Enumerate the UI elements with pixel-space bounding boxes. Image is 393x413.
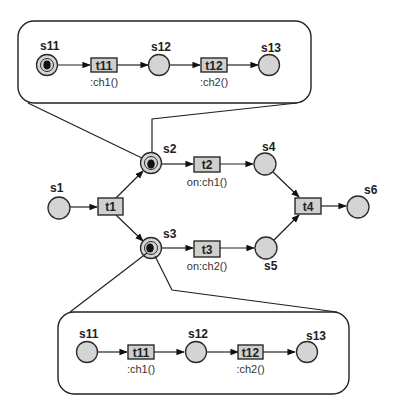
bottom-t11-label: t11 [133,346,150,360]
place-s4[interactable]: s4 [254,140,276,175]
bottom-t12-label: t12 [242,346,260,360]
bottom-s11-label: s11 [79,327,99,341]
place-s2[interactable]: s2 [141,142,177,174]
top-s11-label: s11 [40,39,60,53]
s4-label: s4 [262,140,276,154]
t2-annotation: on:ch1() [187,176,227,188]
arc-t1-s2 [116,171,143,198]
t2-label: t2 [202,158,213,172]
top-transition-t12[interactable]: t12 :ch2() [200,58,228,88]
top-place-s13[interactable]: s13 [259,41,282,76]
bottom-place-s13[interactable]: s13 [297,329,327,363]
top-t11-label: t11 [96,59,113,73]
bottom-s12-label: s12 [188,327,208,341]
token-icon [147,159,155,168]
top-t12-label: t12 [205,59,223,73]
main-net: s1 t1 s2 t2 on:ch1() s4 s3 [48,140,378,273]
s2-label: s2 [163,142,177,156]
place-s6[interactable]: s6 [347,183,378,218]
bottom-t12-annotation: :ch2() [236,363,264,375]
callout-bottom-left-line [70,253,147,312]
t1-label: t1 [105,200,116,214]
top-s12-label: s12 [151,40,171,54]
s3-label: s3 [163,227,177,241]
arc-t1-s3 [116,215,143,241]
place-circle [254,153,276,175]
bottom-place-s11[interactable]: s11 [77,327,99,363]
t3-annotation: on:ch2() [187,260,227,272]
transition-t2[interactable]: t2 on:ch1() [187,157,227,188]
s1-label: s1 [50,181,64,195]
petri-net-diagram: s11 t11 :ch1() s12 t12 :ch2() s13 [0,0,393,413]
bottom-transition-t11[interactable]: t11 :ch1() [127,345,155,375]
subnet-bottom: s11 t11 :ch1() s12 t12 :ch2() s13 [58,253,349,394]
place-s5[interactable]: s5 [255,237,278,273]
arc-s5-t4 [274,215,299,240]
top-transition-t11[interactable]: t11 :ch1() [90,58,118,88]
callout-bottom-right-line [155,256,337,312]
bottom-place-s12[interactable]: s12 [186,327,209,363]
place-circle [297,342,318,363]
callout-top-left-line [28,103,146,160]
bottom-transition-t12[interactable]: t12 :ch2() [236,345,264,375]
place-circle [149,55,170,76]
arc-s4-t4 [273,172,299,197]
place-circle [259,55,280,76]
top-place-s11[interactable]: s11 [37,39,60,76]
place-circle [186,342,207,363]
place-circle [255,237,277,259]
transition-t4[interactable]: t4 [295,198,321,214]
t3-label: t3 [202,243,213,257]
s5-label: s5 [264,259,278,273]
place-circle [347,196,369,218]
bottom-t11-annotation: :ch1() [127,363,155,375]
top-t12-annotation: :ch2() [200,76,228,88]
place-s1[interactable]: s1 [48,181,70,219]
top-s13-label: s13 [261,41,281,55]
token-icon [146,243,154,252]
top-t11-annotation: :ch1() [90,76,118,88]
bottom-s13-label: s13 [306,329,326,343]
token-icon [43,61,50,70]
t4-label: t4 [303,200,314,214]
place-circle [48,197,70,219]
s6-label: s6 [364,183,378,197]
transition-t1[interactable]: t1 [98,198,123,215]
top-place-s12[interactable]: s12 [149,40,172,76]
place-circle [77,342,98,363]
transition-t3[interactable]: t3 on:ch2() [187,241,227,272]
